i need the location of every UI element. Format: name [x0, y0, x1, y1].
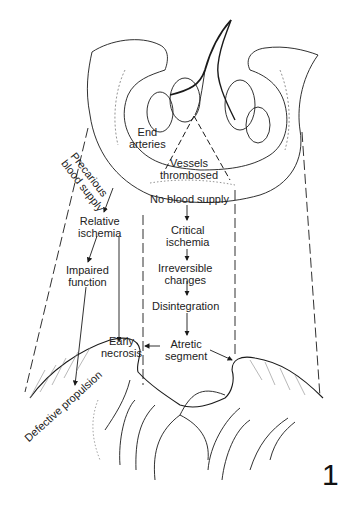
label-early-necrosis: Early necrosis [101, 335, 142, 359]
label-line: Impaired [66, 264, 109, 276]
label-relative-ischemia: Relative ischemia [78, 215, 121, 239]
mesenteric-artery [170, 20, 231, 95]
label-end-arteries: End arteries [129, 126, 166, 150]
label-line: End [129, 126, 166, 138]
label-line: Vessels [160, 157, 218, 169]
label-line: necrosis [101, 347, 142, 359]
label-line: function [66, 276, 109, 288]
figure-number: 1 [322, 460, 339, 490]
label-critical-ischemia: Critical ischemia [166, 224, 209, 248]
label-line: ischemia [78, 227, 121, 239]
label-impaired-function: Impaired function [66, 264, 109, 288]
label-line: changes [158, 274, 212, 286]
distal-blind-end [232, 357, 323, 398]
label-irreversible-changes: Irreversible changes [158, 262, 212, 286]
label-line: ischemia [166, 236, 209, 248]
label-disintegration: Disintegration [152, 300, 219, 312]
label-line: Critical [166, 224, 209, 236]
label-vessels-thrombosed: Vessels thrombosed [160, 157, 218, 181]
label-no-blood-supply: No blood supply [150, 193, 229, 205]
label-line: Irreversible [158, 262, 212, 274]
label-line: Early [101, 335, 142, 347]
diagram-drawing [0, 0, 345, 508]
label-line: Relative [78, 215, 121, 227]
label-line: segment [165, 350, 207, 362]
label-line: thrombosed [160, 169, 218, 181]
intestinal-atresia-diagram: End arteries Precarious blood supply Ves… [0, 0, 345, 508]
label-line: arteries [129, 138, 166, 150]
label-line: Atretic [165, 338, 207, 350]
label-atretic-segment: Atretic segment [165, 338, 207, 362]
upper-bowel-loop [92, 40, 318, 170]
